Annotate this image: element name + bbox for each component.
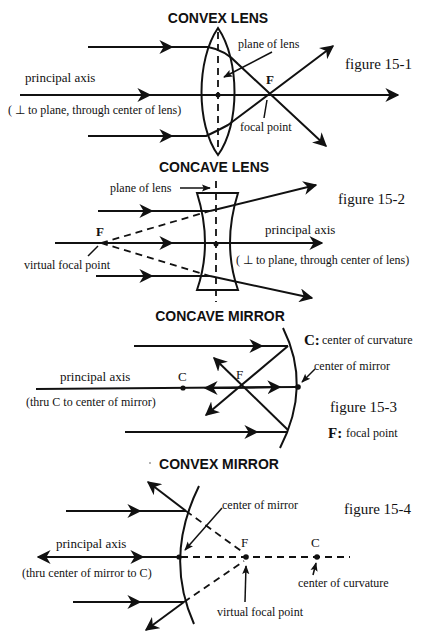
center-of-curvature-dot [314,554,320,560]
figure-caption: figure 15-3 [330,399,397,415]
virtual-focal-point-label: virtual focal point [24,258,111,272]
f-definition-label: focal point [346,426,398,440]
virtual-ray-bottom [184,561,244,602]
convex-lens-title: CONVEX LENS [168,10,268,26]
figure-concave-mirror: CONCAVE MIRROR principal axis (thru C to… [26,308,413,448]
convex-mirror-title: CONVEX MIRROR [159,456,279,472]
refracted-ray-bottom [210,276,312,298]
center-of-mirror-label: center of mirror [222,498,298,512]
stray-dot [149,462,151,464]
axis-note-label: (thru center of mirror to C) [22,566,152,580]
c-letter: C [178,369,187,384]
virtual-ray-bottom [101,243,210,276]
plane-of-lens-label: plane of lens [238,37,300,51]
virtual-ray-top [101,211,210,243]
principal-axis-label: principal axis [56,536,126,551]
center-of-curvature-dot [180,385,185,390]
virtual-focal-point-label: virtual focal point [217,605,304,619]
f-definition-letter: F: [328,425,342,441]
focal-point-dot [243,554,249,560]
virtual-focus-pointer [245,566,246,602]
axis-note-label: ( ⊥ to plane, through center of lens) [236,253,409,267]
figure-convex-mirror: CONVEX MIRROR center of mirror figure 15… [22,456,412,630]
focal-letter: F [241,535,248,550]
reflected-ray-top [148,482,186,511]
plane-of-lens-label: plane of lens [110,181,172,195]
center-pointer [302,369,315,382]
virtual-ray-top [186,511,244,553]
concave-mirror-title: CONCAVE MIRROR [155,308,285,324]
concave-lens-title: CONCAVE LENS [159,159,269,175]
axis-note-label: (thru C to center of mirror) [26,395,156,409]
figure-caption: figure 15-2 [338,191,405,207]
c-definition-label: center of curvature [322,333,413,347]
figure-concave-lens: CONCAVE LENS plane of lens F virtual foc… [24,159,409,302]
optics-diagram: CONVEX LENS plane of lens principal axis… [0,0,435,642]
focal-point-label: focal point [240,120,292,134]
center-of-curvature-label: center of curvature [298,576,389,590]
c-definition-letter: C: [304,332,320,348]
center-of-mirror-label: center of mirror [314,359,390,373]
figure-caption: figure 15-4 [344,501,412,517]
refracted-ray-bottom [88,46,333,136]
focal-letter: F [266,72,274,87]
focal-letter: F [236,367,243,382]
figure-caption: figure 15-1 [345,56,412,72]
focal-pointer [88,246,98,256]
focal-letter: F [96,224,104,239]
reflected-ray-bottom [214,358,288,430]
figure-convex-lens: CONVEX LENS plane of lens principal axis… [8,10,412,155]
c-letter: C [311,535,320,550]
principal-axis-label: principal axis [265,222,335,237]
reflected-ray-bottom [146,602,184,630]
principal-axis-label: principal axis [60,369,130,384]
center-of-curvature-pointer [313,563,316,575]
principal-axis-label: principal axis [25,70,95,85]
reflected-ray-top [206,346,288,415]
axis-note-label: ( ⊥ to plane, through center of lens) [8,103,181,117]
refracted-ray-top [210,185,316,211]
focal-pointer [264,100,267,118]
